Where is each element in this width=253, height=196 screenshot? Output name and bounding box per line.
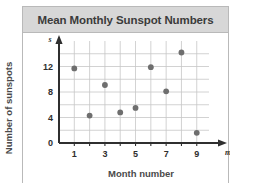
x-tick-label: 5 (133, 149, 138, 159)
x-axis-tick-labels: 13579 (72, 149, 199, 159)
x-axis-title: Month number (108, 168, 174, 179)
y-tick-label: 0 (48, 138, 53, 148)
data-point (163, 88, 169, 94)
figure-card: Mean Monthly Sunspot Numbers 04812 13579… (22, 6, 229, 183)
figure-title: Mean Monthly Sunspot Numbers (37, 14, 213, 26)
axis-variable-labels: sm (47, 35, 230, 157)
data-point (117, 110, 123, 116)
x-tick-label: 3 (102, 149, 107, 159)
data-point (194, 130, 200, 136)
x-tick-label: 1 (72, 149, 77, 159)
x-axis-arrow (218, 139, 227, 146)
plot-svg: 04812 13579 sm Month number (23, 33, 230, 183)
x-tick-label: 9 (194, 149, 199, 159)
y-axis-variable-label: s (47, 35, 51, 44)
y-tick-label: 12 (43, 62, 53, 72)
y-axis-title-svg: Number of sunspots (3, 33, 21, 183)
data-point (71, 66, 77, 72)
y-tick-label: 8 (48, 87, 53, 97)
horizontal-gridlines (59, 54, 209, 131)
data-point (148, 64, 154, 70)
y-axis-title: Number of sunspots (3, 62, 14, 154)
data-point (102, 82, 108, 88)
data-point (87, 113, 93, 119)
y-tick-label: 4 (48, 113, 53, 123)
data-point (133, 105, 139, 111)
scatter-plot: 04812 13579 sm Month number Number of su… (23, 33, 228, 183)
figure-title-band: Mean Monthly Sunspot Numbers (23, 7, 228, 33)
x-axis-variable-label: m (225, 148, 230, 157)
y-axis-tick-labels: 04812 (43, 62, 53, 149)
data-point (179, 50, 185, 56)
x-tick-label: 7 (164, 149, 169, 159)
y-axis-arrow (55, 35, 62, 44)
